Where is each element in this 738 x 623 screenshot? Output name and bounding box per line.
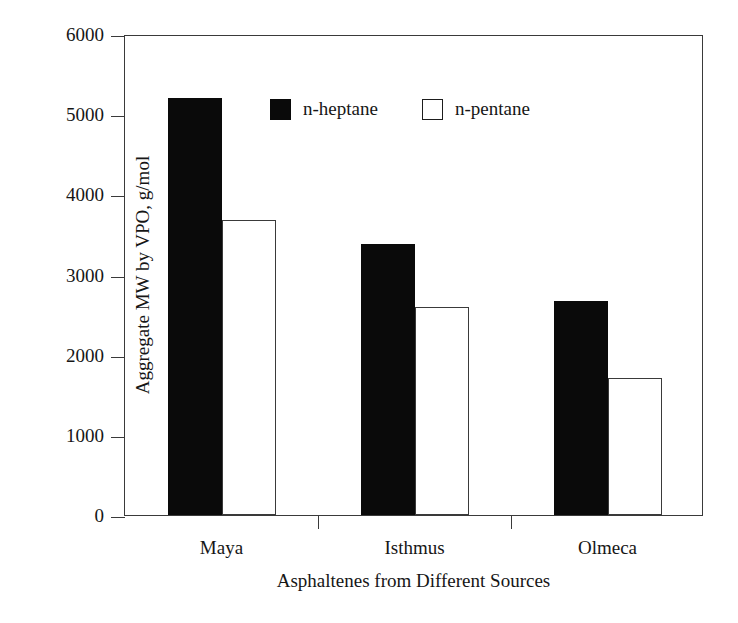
filled-square-icon <box>270 99 291 120</box>
y-axis-tick: 6000 <box>111 36 125 37</box>
bar-n-heptane-Isthmus <box>361 244 415 515</box>
legend-entry: n-heptane <box>270 98 378 120</box>
legend-entry: n-pentane <box>422 98 530 120</box>
y-axis-tick-label: 6000 <box>66 24 104 46</box>
y-axis-tick: 3000 <box>111 277 125 278</box>
y-axis-tick: 2000 <box>111 357 125 358</box>
y-axis-tick: 1000 <box>111 437 125 438</box>
chart-page: Aggregate MW by VPO, g/mol 0100020003000… <box>0 0 738 623</box>
x-axis-tick <box>511 515 512 529</box>
y-axis-tick-label: 4000 <box>66 184 104 206</box>
y-axis-tick-label: 3000 <box>66 265 104 287</box>
plot-area: Aggregate MW by VPO, g/mol 0100020003000… <box>124 35 703 516</box>
y-axis-tick-label: 2000 <box>66 345 104 367</box>
y-axis-tick: 5000 <box>111 116 125 117</box>
y-axis-title: Aggregate MW by VPO, g/mol <box>132 25 154 525</box>
hollow-square-icon <box>422 99 443 120</box>
x-axis-tick <box>318 515 319 529</box>
chart-legend: n-heptanen-pentane <box>270 98 530 120</box>
y-axis-tick: 0 <box>111 517 125 518</box>
y-axis-tick-label: 5000 <box>66 104 104 126</box>
y-axis-tick-label: 1000 <box>66 425 104 447</box>
x-axis-category-label: Olmeca <box>578 537 637 559</box>
bar-n-pentane-Olmeca <box>608 378 662 515</box>
x-axis-category-label: Maya <box>200 537 243 559</box>
x-axis-category-label: Isthmus <box>384 537 444 559</box>
legend-label: n-pentane <box>455 98 530 120</box>
y-axis-tick-label: 0 <box>95 505 105 527</box>
y-axis-tick: 4000 <box>111 196 125 197</box>
bar-n-heptane-Olmeca <box>554 301 608 515</box>
bar-n-heptane-Maya <box>168 98 222 515</box>
bar-n-pentane-Isthmus <box>415 307 469 515</box>
bar-n-pentane-Maya <box>222 220 276 515</box>
x-axis-title: Asphaltenes from Different Sources <box>125 570 702 592</box>
legend-label: n-heptane <box>303 98 378 120</box>
